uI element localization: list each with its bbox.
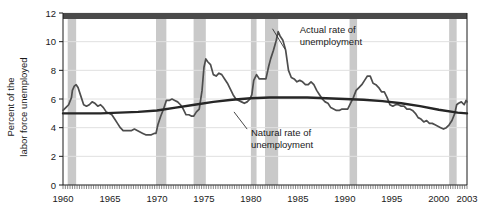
natural-rate-annotation-line1: Natural rate of bbox=[251, 127, 312, 138]
top-border-band bbox=[63, 13, 467, 19]
y-tick-label: 10 bbox=[45, 36, 56, 47]
x-tick-label: 1995 bbox=[381, 193, 402, 204]
unemployment-chart: 024681012 196019651970197519801985199019… bbox=[0, 0, 490, 214]
y-tick-label: 8 bbox=[51, 65, 56, 76]
x-tick-label: 1965 bbox=[99, 193, 120, 204]
x-tick-label: 1970 bbox=[146, 193, 167, 204]
natural-rate-annotation-line2: unemployment bbox=[251, 139, 314, 150]
x-tick-label: 2000 bbox=[428, 193, 449, 204]
x-tick-label: 1990 bbox=[334, 193, 355, 204]
x-tick-label: 1960 bbox=[52, 193, 73, 204]
y-axis-title-line2: labor force unemployed bbox=[18, 57, 29, 156]
y-tick-label: 0 bbox=[51, 180, 56, 191]
y-tick-label: 6 bbox=[51, 94, 56, 105]
y-tick-label: 2 bbox=[51, 151, 56, 162]
x-tick-label: 1980 bbox=[240, 193, 261, 204]
actual-rate-annotation-line2: unemployment bbox=[300, 36, 363, 47]
chart-canvas: 024681012 196019651970197519801985199019… bbox=[0, 0, 490, 214]
x-tick-label: 1975 bbox=[193, 193, 214, 204]
y-axis-title-line1: Percent of the bbox=[5, 77, 16, 136]
actual-rate-annotation-line1: Actual rate of bbox=[300, 24, 356, 35]
x-tick-label: 2003 bbox=[456, 193, 477, 204]
x-tick-label: 1985 bbox=[287, 193, 308, 204]
y-tick-label: 4 bbox=[51, 122, 56, 133]
y-tick-label: 12 bbox=[45, 8, 56, 19]
